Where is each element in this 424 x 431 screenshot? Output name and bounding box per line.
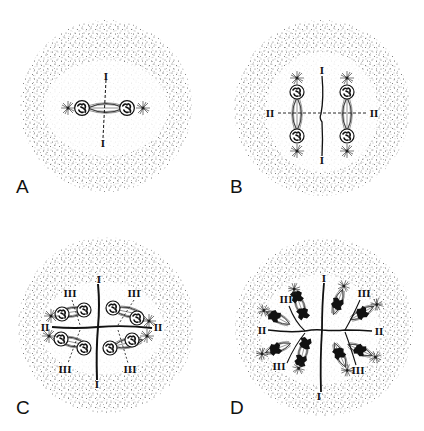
plane-label-i-bottom: I: [320, 154, 324, 166]
plane-label-iii-lr: III: [124, 363, 137, 375]
panel-letter-c: C: [16, 397, 30, 418]
cleavage-diagram: I I A I I II II B: [0, 0, 424, 431]
panel-letter-a: A: [16, 176, 29, 197]
plane-label-ii-right: II: [375, 325, 384, 337]
plane-label-i-top: I: [322, 272, 326, 284]
plane-label-i-top: I: [97, 273, 101, 285]
panel-letter-d: D: [230, 397, 244, 418]
plane-label-ii-left: II: [266, 107, 275, 119]
plane-label-iii-ul: III: [280, 293, 293, 305]
plane-label-ii-right: II: [370, 107, 379, 119]
plane-label-iii-ll: III: [273, 360, 286, 372]
panel-letter-b: B: [230, 176, 243, 197]
plane-label-ii-right: II: [154, 321, 163, 333]
plane-label-iii-ll: III: [59, 363, 72, 375]
panel-d: I I II II III III III III D: [230, 238, 413, 418]
panel-c: I I II II III III III III C: [16, 237, 194, 418]
plane-label-i-top: I: [320, 64, 324, 76]
plane-label-i-bottom: I: [101, 137, 105, 149]
plane-label-iii-ur: III: [128, 287, 141, 299]
plane-label-i-bottom: I: [95, 378, 99, 390]
panel-b: I I II II B: [230, 20, 410, 197]
plane-label-iii-lr: III: [352, 364, 365, 376]
plane-label-iii-ul: III: [64, 287, 77, 299]
plane-label-i-top: I: [104, 70, 108, 82]
plane-label-i-bottom: I: [317, 390, 321, 402]
plane-label-ii-left: II: [41, 321, 50, 333]
plane-label-iii-ur: III: [358, 287, 371, 299]
panel-a: I I A: [16, 20, 192, 197]
plane-label-ii-left: II: [258, 324, 267, 336]
